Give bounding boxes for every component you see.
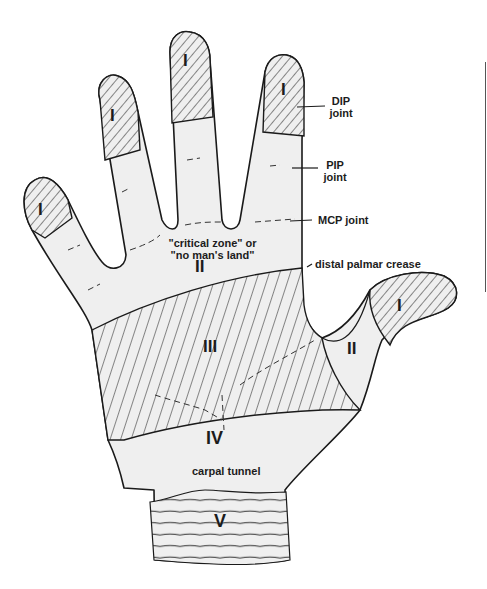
zone-label-thumb-zone2: II	[347, 340, 356, 358]
zone-label-little-tip: I	[38, 201, 43, 219]
pip-label-line1: PIP	[322, 159, 348, 171]
dip-label-line2: joint	[328, 107, 354, 119]
zone-label-zone3: III	[203, 338, 217, 356]
critical-zone-line1: "critical zone" or	[160, 237, 265, 249]
pip-label-line2: joint	[322, 171, 348, 183]
hand-diagram	[0, 0, 487, 589]
zone-label-zone5: V	[214, 512, 226, 530]
distal-palmar-crease-label: distal palmar crease	[315, 258, 421, 270]
dip-label-line1: DIP	[328, 95, 354, 107]
page-edge-line	[485, 62, 486, 292]
mcp-joint-label: MCP joint	[318, 214, 369, 226]
pip-joint-label: PIP joint	[322, 159, 348, 183]
zone-label-zone4: IV	[206, 429, 223, 447]
zone-label-middle-tip: I	[183, 52, 188, 70]
critical-zone-label: "critical zone" or "no man's land"	[160, 237, 265, 261]
carpal-tunnel-label: carpal tunnel	[192, 465, 260, 477]
zone-label-index-tip: I	[110, 107, 115, 125]
zone-label-thumb-tip: I	[397, 297, 402, 315]
dip-joint-label: DIP joint	[328, 95, 354, 119]
critical-zone-line2: "no man's land"	[160, 249, 265, 261]
zone-label-ring-tip: I	[281, 81, 286, 99]
